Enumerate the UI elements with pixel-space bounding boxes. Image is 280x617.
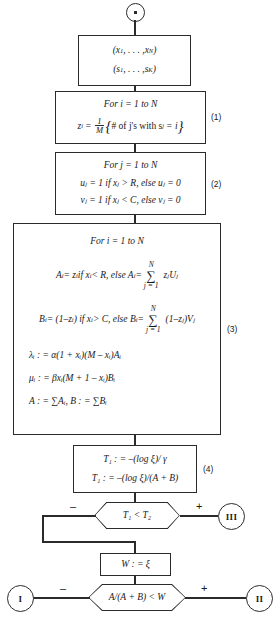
edge-loop-to-wbox	[134, 541, 136, 553]
step-3-line-a: Ai = zi if xi < R, else Ai = N ∑ j = 1 z…	[56, 262, 178, 290]
edge-decision2-plus	[185, 597, 246, 599]
decision-2-text: A/(A + B) < W	[109, 592, 165, 604]
b-rel: > C, else B	[93, 314, 136, 326]
sum-b-bottom: j = 1	[146, 326, 161, 334]
edge-decision1-minus-top	[42, 515, 96, 517]
b-assign: = (1–z	[47, 314, 72, 326]
z-sub: i	[81, 122, 83, 130]
step-3-ab-line: A : = ∑Aᵢ, B : = ∑Bᵢ	[29, 396, 107, 408]
ellipsis-1: , . . . ,	[123, 45, 144, 57]
equals-1: =	[85, 121, 91, 133]
step-3-label: (3)	[227, 324, 237, 334]
step-1-header-text: For i = 1 to N	[104, 99, 158, 111]
step-2-label: (2)	[211, 179, 221, 189]
decision-1-plus-label: +	[196, 500, 202, 512]
decision-2-fill: A/(A + B) < W	[89, 585, 185, 610]
decision-1-fill: T₁ < T₂	[95, 503, 179, 528]
a-eq: =	[135, 270, 141, 282]
step-3-lambda-line: λᵢ : = α(1 + xᵢ)(M – xᵢ)Aᵢ	[29, 350, 121, 362]
flowchart-canvas: (x1, . . . , xN) (s1, . . . , sK) For i …	[0, 0, 280, 617]
frac-denominator: M	[95, 126, 104, 135]
edge-step2-to-step3	[134, 215, 136, 223]
decision-a-over-ab-lt-w[interactable]: A/(A + B) < W	[88, 584, 186, 611]
sum-a: N ∑ j = 1	[144, 261, 159, 289]
frac-numerator: 1	[96, 117, 102, 126]
input-line-1: (x1, . . . , xN)	[113, 45, 157, 57]
sum-b: N ∑ j = 1	[146, 305, 161, 333]
connector-two-label: II	[256, 594, 264, 604]
sum-b-sigma: ∑	[149, 313, 158, 326]
edge-decision1-minus-down	[42, 515, 44, 542]
decision-1-text: T₁ < T₂	[123, 510, 151, 522]
brace-close: }	[178, 120, 184, 132]
a-term: zⱼUⱼ	[164, 270, 179, 282]
sum-a-sigma: ∑	[147, 269, 156, 282]
ellipsis-2: , . . . ,	[123, 64, 144, 76]
step-2-line-1: uⱼ = 1 if xⱼ > R, else uⱼ = 0	[80, 178, 180, 190]
edge-step3-to-step4	[134, 435, 136, 445]
a-rel: < R, else A	[92, 270, 134, 282]
edge-step1-to-step2	[134, 144, 136, 152]
brace-eq: = i	[166, 121, 177, 133]
sum-a-bottom: j = 1	[144, 282, 159, 290]
step-2-header: For j = 1 to N	[104, 160, 158, 172]
step-3-header: For i = 1 to N	[90, 236, 144, 248]
step-4-line-1: T₁ : = –(log ξ)/ γ	[103, 454, 167, 466]
step-2-box: For j = 1 to N uⱼ = 1 if xⱼ > R, else uⱼ…	[55, 152, 206, 215]
step-3-header-text: For i = 1 to N	[90, 236, 144, 248]
connector-three-label: III	[226, 512, 237, 522]
decision-2-plus-label: +	[201, 582, 207, 594]
step-3-mu-line: μᵢ : = βxᵢ(M + 1 – xᵢ)Bᵢ	[29, 373, 115, 385]
step-4-label: (4)	[203, 464, 213, 474]
edge-step4-to-decision1	[134, 493, 136, 502]
connector-two[interactable]: II	[246, 585, 273, 612]
step-4-line-2: T₁ : = –(log ξ)/(A + B)	[92, 473, 179, 485]
brace-open: {	[105, 120, 111, 132]
brace-text: # of j's with s	[111, 121, 162, 133]
step-2-header-text: For j = 1 to N	[104, 160, 158, 172]
input-line-2: (s1, . . . , sK)	[113, 64, 156, 76]
start-node-dot	[134, 11, 137, 14]
connector-one[interactable]: I	[7, 585, 34, 612]
connector-one-label: I	[19, 594, 23, 604]
step-1-formula: zi = 1 M { # of j's with sj= i }	[77, 117, 183, 136]
edge-decision2-minus	[32, 597, 90, 599]
edge-decision1-plus	[180, 515, 218, 517]
step-1-box: For i = 1 to N zi = 1 M { # of j's with …	[55, 91, 206, 144]
decision-2-minus-label: –	[60, 582, 66, 594]
paren-close-1: )	[153, 45, 156, 57]
step-4-box: T₁ : = –(log ξ)/ γ T₁ : = –(log ξ)/(A + …	[73, 445, 197, 493]
decision-1-minus-label: –	[70, 500, 76, 512]
step-1-header: For i = 1 to N	[104, 99, 158, 111]
b-eq: =	[138, 314, 144, 326]
edge-wbox-to-decision2	[134, 576, 136, 584]
step-1-label: (1)	[211, 112, 221, 122]
w-assign-text: W : = ξ	[121, 559, 150, 571]
w-assign-box: W : = ξ	[100, 553, 171, 576]
connector-three[interactable]: III	[218, 503, 245, 530]
edge-start-to-input	[134, 20, 136, 35]
b-cond: ) if x	[74, 314, 91, 326]
input-box: (x1, . . . , xN) (s1, . . . , sK)	[78, 35, 191, 86]
b-term: (1–zⱼ)Vⱼ	[166, 314, 195, 326]
edge-decision1-minus-bottom	[42, 541, 135, 543]
fraction-1-over-m: 1 M	[95, 117, 104, 136]
decision-t1-lt-t2[interactable]: T₁ < T₂	[94, 502, 180, 529]
brace-sub: j	[162, 122, 164, 130]
step-3-line-b: Bi = (1–zi) if xi > C, else Bi = N ∑ j =…	[39, 306, 195, 334]
step-2-line-2: vⱼ = 1 if xⱼ < C, else vⱼ = 0	[81, 195, 181, 207]
step-3-box: For i = 1 to N Ai = zi if xi < R, else A…	[13, 223, 221, 435]
paren-close-2: )	[153, 64, 156, 76]
a-assign: = z	[64, 270, 76, 282]
a-cond: if x	[78, 270, 90, 282]
